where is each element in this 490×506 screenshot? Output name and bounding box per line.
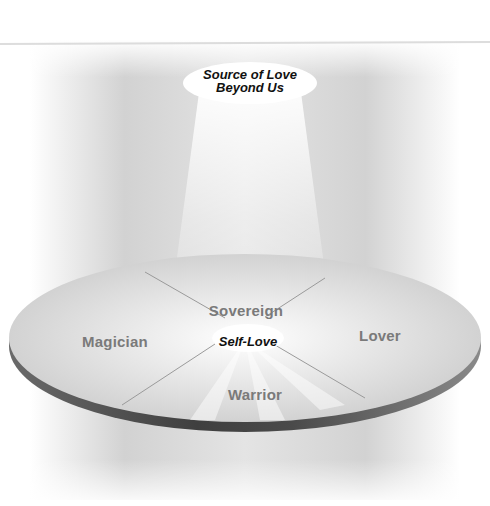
segment-magician: Magician [70, 333, 160, 350]
segment-sovereign: Sovereign [206, 302, 286, 319]
center-self-love: Self-Love [213, 334, 283, 349]
segment-warrior: Warrior [220, 386, 290, 403]
source-label-line2: Beyond Us [190, 81, 310, 94]
source-of-love-label: Source of Love Beyond Us [190, 68, 310, 94]
segment-lover: Lover [350, 327, 410, 344]
